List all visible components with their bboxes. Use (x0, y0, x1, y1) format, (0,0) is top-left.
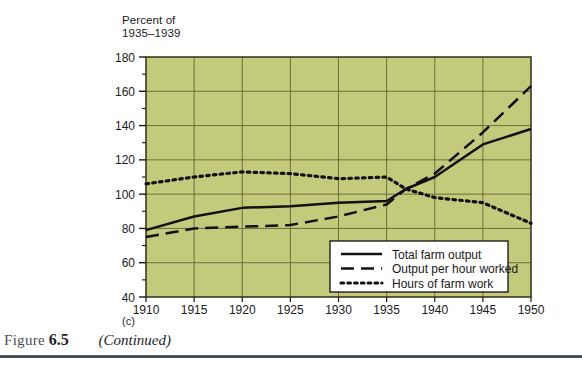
x-axis-tick-label: 1915 (181, 303, 208, 317)
x-axis-tick-label: 1925 (277, 303, 304, 317)
x-axis-tick-label: 1910 (133, 303, 160, 317)
x-axis-tick-label: 1950 (518, 303, 545, 317)
legend-label: Output per hour worked (392, 262, 518, 276)
y-axis-tick-label: 80 (122, 222, 136, 236)
legend-label: Total farm output (392, 248, 482, 262)
x-axis-tick-label: 1940 (421, 303, 448, 317)
y-axis-tick-label: 140 (115, 119, 135, 133)
x-axis-tick-label: 1935 (373, 303, 400, 317)
y-axis-tick-label: 160 (115, 85, 135, 99)
caption-number: 6.5 (49, 331, 69, 348)
line-chart: 4060801001201401601801910191519201925193… (0, 0, 582, 320)
legend-label: Hours of farm work (392, 277, 494, 291)
x-axis-tick-label: 1945 (470, 303, 497, 317)
y-axis-tick-label: 180 (115, 51, 135, 65)
figure-caption: Figure 6.5 (Continued) (4, 331, 171, 349)
x-axis-tick-label: 1920 (229, 303, 256, 317)
figure-container: Percent of 1935–1939 4060801001201401601… (0, 0, 582, 366)
panel-letter: (c) (122, 315, 135, 327)
x-axis-tick-label: 1930 (325, 303, 352, 317)
y-axis-tick-label: 60 (122, 256, 136, 270)
caption-label: Figure (4, 332, 45, 348)
y-axis-tick-label: 100 (115, 188, 135, 202)
caption-note: (Continued) (98, 332, 171, 348)
y-axis-tick-label: 120 (115, 153, 135, 167)
caption-divider (0, 355, 582, 358)
